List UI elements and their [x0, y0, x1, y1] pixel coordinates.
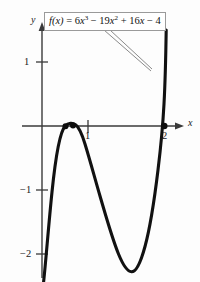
formula-term3-coeff: 16	[129, 15, 140, 26]
formula-term4: 4	[156, 15, 161, 26]
root-dot-twothirds	[70, 122, 76, 128]
formula-op3: −	[147, 15, 153, 26]
formula-callout-box: f(x) = 6x3 − 19x2 + 16x − 4	[44, 12, 166, 31]
x-tick-label-2: 2	[162, 131, 167, 142]
y-axis-label: y	[31, 15, 35, 25]
formula-equals-sign: =	[66, 15, 72, 26]
plot-canvas	[0, 0, 200, 282]
formula-term1-exp: 3	[85, 14, 89, 22]
y-tick-label-neg1: −1	[20, 185, 31, 196]
x-axis-arrowhead	[175, 123, 184, 130]
x-tick-label-1: 1	[85, 131, 90, 142]
leader-line	[104, 30, 152, 71]
formula-term2-coeff: 19	[99, 15, 110, 26]
x-axis-label: x	[188, 118, 192, 128]
function-graph-figure: y x 1 −1 −2 1 2 f(x) = 6x3 − 19x2 + 16x …	[0, 0, 200, 282]
formula-op1: −	[91, 15, 97, 26]
y-tick-label-neg2: −2	[20, 249, 31, 260]
x-axis	[22, 123, 184, 130]
formula-term3-var: x	[140, 15, 145, 26]
y-tick-label-1: 1	[24, 57, 29, 68]
root-dot-half	[63, 123, 69, 129]
y-axis	[39, 22, 46, 278]
root-dot-two	[161, 123, 167, 129]
formula-term2-exp: 2	[115, 14, 119, 22]
formula-op2: +	[121, 15, 127, 26]
formula-lhs: f(x)	[49, 15, 64, 26]
